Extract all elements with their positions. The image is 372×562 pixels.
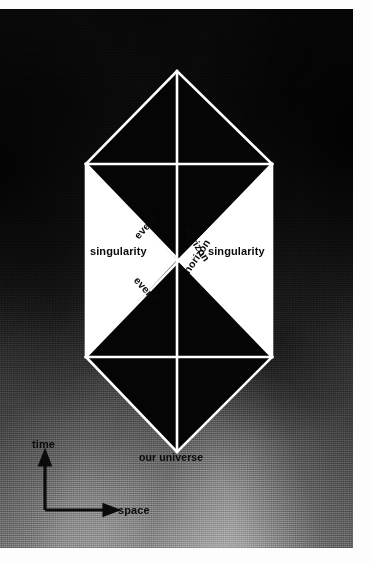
label-space-axis: space [118, 505, 150, 516]
coordinate-axes [40, 452, 117, 515]
space-axis-arrowhead [104, 505, 117, 515]
label-singularity-right: singularity [208, 246, 265, 257]
label-singularity-left: singularity [90, 246, 147, 257]
time-axis-arrowhead [40, 452, 50, 465]
region-spacer-left [62, 164, 86, 357]
figure-photo: other universe our universe singularity … [0, 9, 353, 548]
label-other-universe: other universe [137, 44, 211, 55]
penrose-diagram: other universe our universe singularity … [0, 9, 353, 548]
label-our-universe: our universe [139, 452, 203, 463]
scanned-page: other universe our universe singularity … [0, 0, 372, 562]
label-time-axis: time [32, 439, 55, 450]
penrose-diagram-svg [0, 9, 353, 548]
